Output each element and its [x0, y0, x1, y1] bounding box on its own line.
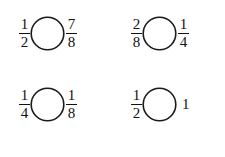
numerator: 2	[133, 17, 141, 32]
right-operand-fraction: 7 8	[66, 15, 77, 51]
problem-item: 1 2 1	[113, 84, 225, 124]
comparison-answer-circle[interactable]	[30, 16, 65, 51]
fraction-comparison-worksheet: 1 2 7 8 2 8	[0, 0, 225, 157]
right-operand-fraction: 1 8	[66, 86, 77, 122]
numerator: 1	[180, 17, 188, 32]
numerator: 1	[21, 88, 29, 103]
problem-row: 1 4 1 8 1 2	[0, 84, 225, 124]
numerator: 7	[68, 17, 76, 32]
numerator: 1	[21, 17, 29, 32]
denominator: 8	[68, 35, 76, 50]
whole-number-value: 1	[182, 97, 190, 112]
denominator: 8	[133, 35, 141, 50]
left-operand-fraction: 1 4	[19, 86, 30, 122]
denominator: 2	[21, 35, 29, 50]
comparison-answer-circle[interactable]	[142, 16, 177, 51]
denominator: 4	[21, 106, 29, 121]
right-operand-fraction: 1 4	[178, 15, 189, 51]
problem-item: 2 8 1 4	[113, 13, 225, 53]
denominator: 8	[68, 106, 76, 121]
numerator: 1	[68, 88, 76, 103]
numerator: 1	[133, 88, 141, 103]
left-operand-fraction: 1 2	[19, 15, 30, 51]
comparison-answer-circle[interactable]	[30, 87, 65, 122]
denominator: 4	[180, 35, 188, 50]
problem-item: 1 2 7 8	[0, 13, 113, 53]
problem-row: 1 2 7 8 2 8	[0, 13, 225, 53]
left-operand-fraction: 2 8	[131, 15, 142, 51]
denominator: 2	[133, 106, 141, 121]
right-operand-whole-number: 1	[182, 86, 190, 122]
left-operand-fraction: 1 2	[131, 86, 142, 122]
problem-item: 1 4 1 8	[0, 84, 113, 124]
comparison-answer-circle[interactable]	[142, 87, 177, 122]
